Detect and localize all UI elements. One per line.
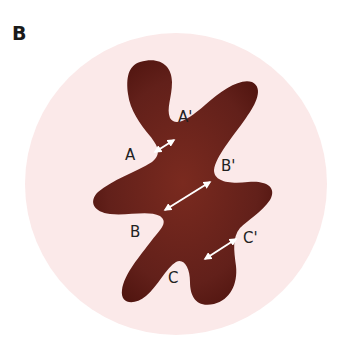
label-a-prime: A' [178, 108, 192, 126]
cell-diagram: A A' B B' C C' [0, 0, 350, 341]
label-b: B [130, 223, 140, 241]
label-c: C [168, 269, 178, 287]
label-a: A [125, 146, 136, 164]
label-b-prime: B' [221, 157, 235, 175]
label-c-prime: C' [243, 229, 258, 247]
